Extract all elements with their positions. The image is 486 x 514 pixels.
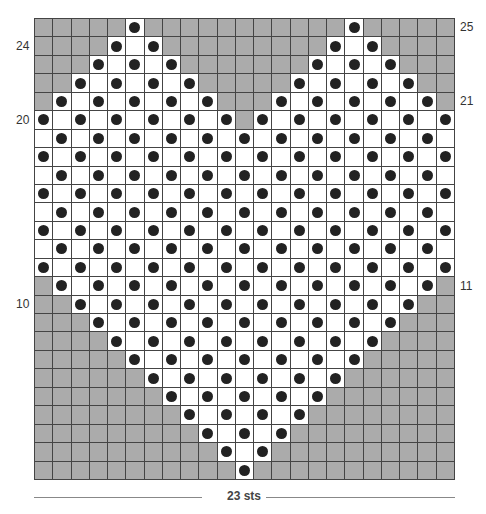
chart-cell-stitch bbox=[126, 296, 143, 313]
chart-cell-stitch bbox=[254, 167, 271, 184]
chart-cell-stitch bbox=[382, 259, 399, 276]
chart-cell-stitch bbox=[199, 425, 216, 442]
dot-symbol-icon bbox=[75, 114, 86, 125]
dot-symbol-icon bbox=[330, 373, 341, 384]
chart-cell-stitch bbox=[400, 148, 417, 165]
chart-cell-stitch bbox=[345, 296, 362, 313]
chart-cell-stitch bbox=[181, 240, 198, 257]
chart-cell-stitch bbox=[72, 203, 89, 220]
chart-cell-stitch bbox=[218, 332, 235, 349]
chart-cell-stitch bbox=[272, 167, 289, 184]
chart-cell-stitch bbox=[72, 130, 89, 147]
chart-cell-stitch bbox=[90, 259, 107, 276]
dot-symbol-icon bbox=[294, 114, 305, 125]
chart-cell-stitch bbox=[126, 74, 143, 91]
chart-cell-stitch bbox=[382, 148, 399, 165]
chart-cell-stitch bbox=[236, 167, 253, 184]
chart-cell-stitch bbox=[35, 148, 52, 165]
dot-symbol-icon bbox=[56, 207, 67, 218]
dot-symbol-icon bbox=[239, 391, 250, 402]
chart-cell-no-stitch bbox=[145, 425, 162, 442]
chart-cell-stitch bbox=[418, 93, 435, 110]
dot-symbol-icon bbox=[257, 446, 268, 457]
dot-symbol-icon bbox=[422, 133, 433, 144]
chart-cell-no-stitch bbox=[53, 351, 70, 368]
chart-cell-stitch bbox=[364, 222, 381, 239]
chart-cell-stitch bbox=[72, 240, 89, 257]
chart-cell-stitch bbox=[309, 111, 326, 128]
dot-symbol-icon bbox=[93, 317, 104, 328]
chart-cell-no-stitch bbox=[199, 37, 216, 54]
stitch-count-label: 23 sts bbox=[218, 489, 270, 503]
chart-cell-no-stitch bbox=[72, 369, 89, 386]
chart-cell-no-stitch bbox=[345, 369, 362, 386]
chart-cell-stitch bbox=[218, 277, 235, 294]
chart-cell-stitch bbox=[400, 277, 417, 294]
chart-cell-no-stitch bbox=[90, 37, 107, 54]
chart-cell-no-stitch bbox=[345, 443, 362, 460]
chart-cell-no-stitch bbox=[418, 19, 435, 36]
chart-cell-stitch bbox=[218, 369, 235, 386]
chart-cell-stitch bbox=[400, 167, 417, 184]
chart-cell-no-stitch bbox=[437, 93, 454, 110]
dot-symbol-icon bbox=[202, 280, 213, 291]
chart-cell-no-stitch bbox=[345, 406, 362, 423]
chart-cell-stitch bbox=[72, 277, 89, 294]
dot-symbol-icon bbox=[330, 114, 341, 125]
dot-symbol-icon bbox=[257, 262, 268, 273]
chart-cell-stitch bbox=[199, 148, 216, 165]
chart-cell-stitch bbox=[382, 74, 399, 91]
chart-cell-stitch bbox=[254, 277, 271, 294]
chart-cell-stitch bbox=[437, 259, 454, 276]
dot-symbol-icon bbox=[221, 409, 232, 420]
dot-symbol-icon bbox=[403, 78, 414, 89]
dot-symbol-icon bbox=[422, 280, 433, 291]
dot-symbol-icon bbox=[349, 59, 360, 70]
dot-symbol-icon bbox=[330, 188, 341, 199]
chart-cell-stitch bbox=[327, 277, 344, 294]
dot-symbol-icon bbox=[367, 188, 378, 199]
chart-cell-no-stitch bbox=[418, 332, 435, 349]
chart-cell-no-stitch bbox=[163, 406, 180, 423]
chart-cell-no-stitch bbox=[364, 406, 381, 423]
chart-cell-stitch bbox=[364, 148, 381, 165]
dot-symbol-icon bbox=[312, 391, 323, 402]
chart-cell-stitch bbox=[272, 406, 289, 423]
chart-cell-stitch bbox=[181, 148, 198, 165]
chart-cell-no-stitch bbox=[145, 462, 162, 479]
chart-cell-stitch bbox=[218, 111, 235, 128]
chart-cell-stitch bbox=[345, 332, 362, 349]
dot-symbol-icon bbox=[294, 151, 305, 162]
dot-symbol-icon bbox=[312, 133, 323, 144]
dot-symbol-icon bbox=[312, 59, 323, 70]
chart-cell-stitch bbox=[291, 74, 308, 91]
chart-cell-stitch bbox=[108, 167, 125, 184]
chart-cell-stitch bbox=[199, 314, 216, 331]
chart-cell-stitch bbox=[291, 203, 308, 220]
chart-cell-no-stitch bbox=[327, 19, 344, 36]
chart-cell-stitch bbox=[53, 240, 70, 257]
chart-cell-stitch bbox=[145, 56, 162, 73]
chart-cell-stitch bbox=[236, 388, 253, 405]
dot-symbol-icon bbox=[330, 299, 341, 310]
chart-cell-stitch bbox=[236, 462, 253, 479]
dot-symbol-icon bbox=[239, 428, 250, 439]
dot-symbol-icon bbox=[93, 170, 104, 181]
row-number-label: 25 bbox=[460, 20, 473, 34]
chart-cell-stitch bbox=[291, 111, 308, 128]
dot-symbol-icon bbox=[312, 243, 323, 254]
chart-cell-stitch bbox=[126, 314, 143, 331]
chart-cell-no-stitch bbox=[437, 74, 454, 91]
chart-cell-no-stitch bbox=[254, 37, 271, 54]
chart-cell-stitch bbox=[418, 111, 435, 128]
chart-cell-stitch bbox=[418, 259, 435, 276]
chart-cell-stitch bbox=[309, 148, 326, 165]
dot-symbol-icon bbox=[257, 373, 268, 384]
dot-symbol-icon bbox=[239, 243, 250, 254]
dot-symbol-icon bbox=[221, 446, 232, 457]
chart-cell-stitch bbox=[254, 148, 271, 165]
dot-symbol-icon bbox=[440, 225, 451, 236]
chart-cell-stitch bbox=[364, 185, 381, 202]
chart-cell-stitch bbox=[418, 167, 435, 184]
chart-cell-no-stitch bbox=[327, 443, 344, 460]
